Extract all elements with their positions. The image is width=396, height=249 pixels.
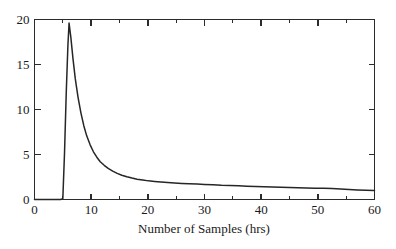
x-tick-label: 0 — [31, 202, 38, 217]
axis-ticks — [35, 20, 375, 200]
x-axis-tick-labels: 0102030405060 — [31, 202, 381, 217]
y-axis-tick-labels: 05101520 — [17, 12, 30, 207]
y-tick-label: 10 — [17, 102, 30, 117]
y-tick-label: 5 — [23, 147, 30, 162]
x-tick-label: 20 — [141, 202, 154, 217]
x-tick-label: 30 — [198, 202, 211, 217]
y-tick-label: 0 — [23, 192, 30, 207]
chart-page: 0102030405060 05101520 Number of Samples… — [0, 0, 396, 249]
x-tick-label: 60 — [368, 202, 381, 217]
x-tick-label: 10 — [85, 202, 98, 217]
plot-frame — [35, 20, 375, 200]
x-tick-label: 40 — [255, 202, 268, 217]
data-curve — [35, 23, 375, 199]
y-tick-label: 20 — [17, 12, 30, 27]
y-tick-label: 15 — [17, 57, 30, 72]
x-tick-label: 50 — [311, 202, 324, 217]
line-chart: 0102030405060 05101520 Number of Samples… — [0, 0, 396, 249]
x-axis-title: Number of Samples (hrs) — [138, 221, 270, 236]
plot-box — [35, 20, 375, 200]
